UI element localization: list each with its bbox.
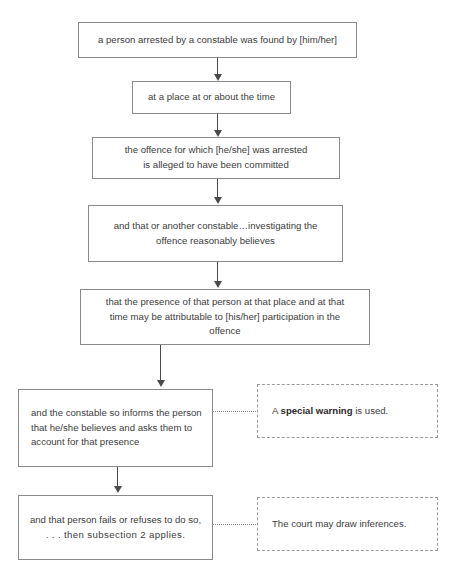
connector-6-to-7 bbox=[117, 467, 118, 488]
connector-2-to-3-arrowhead bbox=[214, 130, 222, 137]
callout-text: The court may draw inferences. bbox=[272, 517, 406, 531]
connector-3-to-4-arrowhead bbox=[214, 197, 222, 204]
callout-special-warning-note: A special warning is used. bbox=[257, 384, 438, 438]
connector-1-to-2-arrowhead bbox=[214, 74, 222, 81]
flow-node-text: and that person fails or refuses to do s… bbox=[27, 513, 204, 543]
flow-node-text-line-3: offence bbox=[209, 325, 240, 336]
flow-node-text-line-1: that the presence of that person at that… bbox=[106, 296, 344, 307]
connector-4-to-5-arrowhead bbox=[214, 281, 222, 288]
flow-node-text-line-1: the offence for which [he/she] was arres… bbox=[125, 144, 308, 155]
flow-node-person-fails-or-refuses: and that person fails or refuses to do s… bbox=[18, 495, 213, 560]
flow-node-constable-informs-and-asks-account: and the constable so informs the person … bbox=[18, 389, 213, 467]
flow-node-text-line-1: and that or another constable…investigat… bbox=[114, 220, 318, 231]
connector-node7-to-callout2 bbox=[213, 524, 258, 525]
flow-node-text-line-2: that he/she believes and asks them to bbox=[31, 422, 192, 433]
callout-text-before: The court may draw inferences. bbox=[272, 518, 406, 529]
flow-node-text-line-1: and that person fails or refuses to do s… bbox=[30, 514, 201, 525]
connector-5-to-6-arrowhead bbox=[157, 380, 165, 387]
flow-node-text-line-2: . . . then subsection 2 applies. bbox=[46, 529, 186, 540]
flow-node-text-line-3: account for that presence bbox=[31, 436, 139, 447]
flow-node-text-line-2: time may be attributable to [his/her] pa… bbox=[110, 311, 340, 322]
connector-node6-to-callout1 bbox=[213, 411, 258, 412]
flow-node-text-line-1: and the constable so informs the person bbox=[31, 407, 202, 418]
flowchart-diagram: a person arrested by a constable was fou… bbox=[0, 0, 462, 587]
flow-node-text: and that or another constable…investigat… bbox=[97, 219, 334, 249]
flow-node-text: and the constable so informs the person … bbox=[31, 406, 204, 451]
flow-node-arrested-found-by: a person arrested by a constable was fou… bbox=[78, 22, 357, 58]
flow-node-text: at a place at or about the time bbox=[141, 90, 282, 105]
callout-text: A special warning is used. bbox=[272, 404, 388, 418]
flow-node-text-line-2: is alleged to have been committed bbox=[143, 159, 289, 170]
connector-5-to-6 bbox=[160, 345, 161, 382]
connector-4-to-5 bbox=[217, 262, 218, 283]
flow-node-offence-alleged-committed: the offence for which [he/she] was arres… bbox=[92, 137, 340, 179]
flow-node-text: the offence for which [he/she] was arres… bbox=[101, 143, 331, 173]
callout-text-emphasis: special warning bbox=[281, 405, 353, 416]
callout-text-before: A bbox=[272, 405, 281, 416]
connector-3-to-4 bbox=[217, 179, 218, 199]
flow-node-text: that the presence of that person at that… bbox=[89, 295, 361, 340]
flow-node-text: a person arrested by a constable was fou… bbox=[87, 33, 348, 48]
flow-node-presence-attributable-to-participation: that the presence of that person at that… bbox=[80, 289, 370, 345]
flow-node-place-and-time: at a place at or about the time bbox=[132, 81, 291, 114]
callout-court-inferences-note: The court may draw inferences. bbox=[257, 497, 438, 551]
callout-text-after: is used. bbox=[353, 405, 389, 416]
flow-node-text-line-2: offence reasonably believes bbox=[156, 235, 275, 246]
flow-node-constable-reasonably-believes: and that or another constable…investigat… bbox=[88, 205, 343, 262]
connector-6-to-7-arrowhead bbox=[114, 486, 122, 493]
